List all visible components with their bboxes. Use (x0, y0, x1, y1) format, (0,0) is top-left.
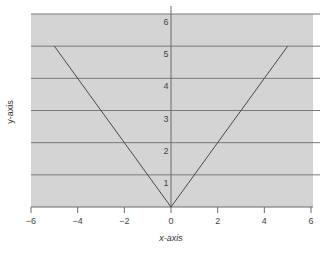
x-ticks: −6−4−20246 (26, 207, 314, 226)
x-tick-label: 6 (308, 216, 313, 226)
y-tick-label: 3 (163, 114, 168, 124)
y-tick-label: 2 (163, 146, 168, 156)
x-tick-label: 4 (262, 216, 267, 226)
y-tick-label: 6 (163, 17, 168, 27)
chart: −6−4−20246 123456 x-axis y-axis (0, 0, 332, 255)
y-tick-label: 4 (163, 81, 168, 91)
y-tick-label: 5 (163, 49, 168, 59)
x-tick-label: 0 (168, 216, 173, 226)
y-axis-title: y-axis (5, 100, 15, 124)
x-axis-title: x-axis (158, 233, 183, 243)
x-tick-label: −6 (26, 216, 36, 226)
y-tick-label: 1 (163, 178, 168, 188)
x-tick-label: −2 (119, 216, 129, 226)
x-tick-label: 2 (215, 216, 220, 226)
x-tick-label: −4 (73, 216, 83, 226)
